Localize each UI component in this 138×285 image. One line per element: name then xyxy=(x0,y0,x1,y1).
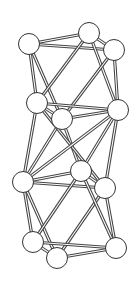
graph-svg xyxy=(0,0,138,285)
edge-A-C xyxy=(29,44,114,50)
edges-layer xyxy=(23,33,118,258)
node-G xyxy=(71,161,92,182)
edge-H-I xyxy=(23,182,105,188)
node-I xyxy=(95,178,116,199)
node-A xyxy=(19,34,40,55)
node-K xyxy=(47,248,68,269)
node-L xyxy=(106,238,127,259)
node-J xyxy=(23,232,44,253)
graph-diagram xyxy=(0,0,138,285)
node-B xyxy=(79,23,100,44)
edge-J-L xyxy=(33,242,116,248)
node-C xyxy=(104,40,125,61)
node-E xyxy=(52,109,73,130)
node-H xyxy=(13,172,34,193)
node-D xyxy=(27,93,48,114)
node-F xyxy=(108,100,129,121)
